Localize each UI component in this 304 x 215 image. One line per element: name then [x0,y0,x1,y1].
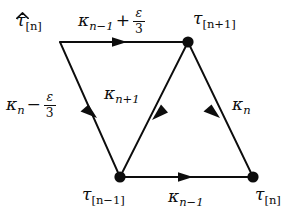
kappa-subscript-middle: n+1 [115,92,139,106]
three-denominator: 3 [133,23,145,35]
edge-bottom-arrowhead [178,172,193,182]
edge-middle-line [120,42,188,177]
kappa-base-top: κ [78,10,89,30]
tau-hat-base: τ [16,10,25,30]
kappa-subscript-bottom: n−1 [179,195,203,209]
kappa-subscript-left: n [17,103,24,117]
kappa-base-middle: κ [104,83,115,103]
edge-label-top: κn−1+ε3 [78,8,146,36]
epsilon-numerator-left: ε [44,91,56,103]
math-diagram: τ[n] κn−1+ε3 τ[n+1] κn−ε3 κn+1 κn τ[n−1]… [0,0,304,215]
vertex-label-tau-n: τ[n] [255,186,281,203]
tau-subscript-n-plus-1: [n+1] [202,17,235,31]
tau-base-n-plus-1: τ [193,8,202,28]
edge-right-arrowhead [204,105,221,119]
plus-operator: + [114,10,132,30]
tau-subscript-n-minus-1: [n−1] [91,193,124,207]
epsilon-numerator: ε [133,7,145,19]
kappa-subscript-top: n−1 [89,19,113,33]
epsilon-over-three-fraction: ε3 [133,7,145,35]
vertex-dot-tau-n [247,171,258,182]
tau-subscript-n: [n] [264,193,280,207]
tau-base-n-minus-1: τ [82,184,91,204]
edge-left-arrowhead [81,105,98,119]
tau-base-n: τ [255,184,264,204]
vertex-dot-tau-n-plus-1 [182,36,193,47]
edge-label-bottom: κn−1 [168,188,204,205]
vertex-label-tau-n-minus-1: τ[n−1] [82,186,125,203]
kappa-base-left: κ [6,94,17,114]
edge-label-middle: κn+1 [104,85,140,102]
edge-label-left: κn−ε3 [6,92,57,120]
minus-operator: − [25,94,43,114]
vertex-label-tau-hat-n: τ[n] [16,12,42,29]
tau-hat-glyph: τ [16,12,25,29]
vertex-label-tau-n-plus-1: τ[n+1] [193,10,236,27]
three-denominator-left: 3 [44,107,56,119]
vertex-dot-tau-n-minus-1 [114,171,125,182]
tau-hat-subscript: [n] [25,19,41,33]
kappa-base-bottom: κ [168,186,179,206]
kappa-base-right: κ [232,94,243,114]
epsilon-over-three-fraction-left: ε3 [44,91,56,119]
edge-top-arrowhead [112,37,127,47]
kappa-subscript-right: n [243,103,250,117]
edge-label-right: κn [232,96,251,113]
